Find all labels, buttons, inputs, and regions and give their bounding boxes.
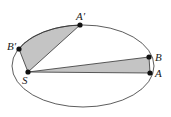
point-a <box>147 70 152 75</box>
label-a-prime: A′ <box>75 10 86 22</box>
sector-a-b <box>28 57 150 73</box>
point-b <box>146 54 151 59</box>
label-b: B <box>155 51 162 63</box>
label-s: S <box>22 74 28 86</box>
label-b-prime: B′ <box>7 40 17 52</box>
kepler-diagram: S A B A′ B′ <box>0 0 171 117</box>
point-b-prime <box>16 46 21 51</box>
label-a: A <box>154 67 162 79</box>
point-a-prime <box>77 22 82 27</box>
sector-b-a-prime <box>19 25 80 72</box>
